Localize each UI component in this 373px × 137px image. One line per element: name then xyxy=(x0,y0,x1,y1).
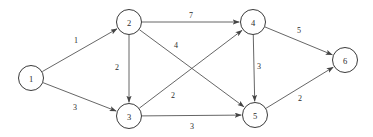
edges-layer xyxy=(42,22,333,116)
graph-node-5[interactable]: 5 xyxy=(243,103,268,128)
graph-node-3[interactable]: 3 xyxy=(117,104,142,129)
graph-canvas: 1327423352 123456 xyxy=(0,0,373,137)
graph-node-2[interactable]: 2 xyxy=(117,10,142,35)
graph-edge-4-5 xyxy=(253,35,254,101)
graph-node-4[interactable]: 4 xyxy=(241,10,266,35)
node-label-5: 5 xyxy=(253,111,257,121)
graph-edge-1-3 xyxy=(43,83,116,111)
graph-edge-1-2 xyxy=(42,29,117,72)
graph-edge-3-4 xyxy=(139,30,242,108)
graph-node-1[interactable]: 1 xyxy=(19,66,44,91)
graph-figure: 1327423352 123456 xyxy=(0,0,373,137)
edge-weight-1-3: 3 xyxy=(73,103,77,112)
node-label-2: 2 xyxy=(127,18,131,28)
edge-weight-3-5: 3 xyxy=(190,122,194,131)
graph-edge-3-5 xyxy=(142,115,241,116)
edge-weight-3-4: 2 xyxy=(171,91,175,100)
edge-weight-4-5: 3 xyxy=(257,62,261,71)
node-label-6: 6 xyxy=(343,56,347,66)
nodes-layer: 123456 xyxy=(19,10,358,129)
edge-weight-4-6: 5 xyxy=(297,26,301,35)
edge-weight-5-6: 2 xyxy=(298,94,302,103)
edge-weight-2-5: 4 xyxy=(174,41,178,50)
edge-weight-2-4: 7 xyxy=(189,11,193,20)
node-label-1: 1 xyxy=(29,74,33,84)
node-label-3: 3 xyxy=(127,112,131,122)
graph-node-6[interactable]: 6 xyxy=(333,48,358,73)
edge-weight-1-2: 1 xyxy=(74,36,78,45)
edge-weight-2-3: 2 xyxy=(115,63,119,72)
